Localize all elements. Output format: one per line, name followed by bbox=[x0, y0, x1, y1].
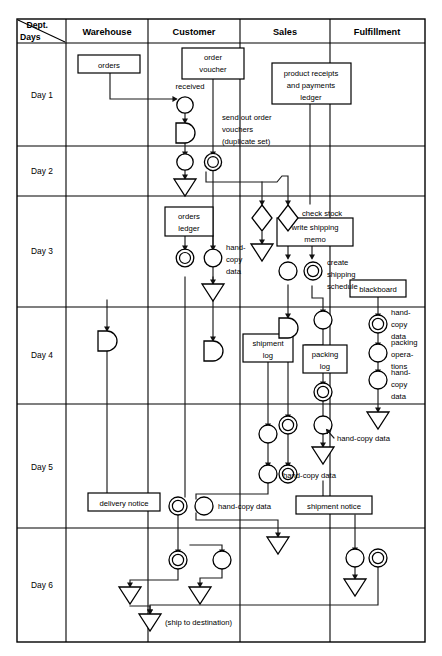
doc-label-shipment-log-l2: log bbox=[263, 351, 273, 360]
node-sink-day6-customer[interactable] bbox=[189, 587, 211, 604]
annot-packing-ops-l2: opera- bbox=[391, 350, 414, 359]
doc-label-shipment-notice: shipment notice bbox=[307, 502, 361, 511]
annot-handcopy-day5-b: hand-copy data bbox=[283, 471, 337, 480]
doc-label-memo-l1: write shipping bbox=[290, 223, 338, 232]
doc-label-receipts-l3: ledger bbox=[300, 93, 322, 102]
annot-send-out-l1: send out order bbox=[222, 113, 272, 122]
column-header-warehouse[interactable]: Warehouse bbox=[82, 27, 131, 37]
flow-day2-record-to-diamond-b bbox=[206, 172, 288, 204]
doc-label-memo-l2: memo bbox=[304, 235, 325, 244]
row-header-day2[interactable]: Day 2 bbox=[31, 166, 53, 176]
annot-handcopy-day3-l2: copy bbox=[226, 255, 242, 264]
annot-handcopy-day5-a: hand-copy data bbox=[337, 434, 391, 443]
corner-dept-label: Dept. bbox=[27, 20, 48, 30]
flow-day3-record-to-day4-place bbox=[312, 286, 323, 313]
annot-handcopy-f2-l2: copy bbox=[391, 380, 407, 389]
node-wait-day4-customer[interactable] bbox=[204, 341, 223, 361]
node-place-day5-customer[interactable] bbox=[195, 497, 213, 515]
doc-label-blackboard: blackboard bbox=[359, 285, 397, 294]
column-header-customer[interactable]: Customer bbox=[173, 27, 216, 37]
annot-create-ship-l2: shipping bbox=[327, 270, 356, 279]
row-headers: Day 1 Day 2 Day 3 Day 4 Day 5 Day 6 bbox=[31, 90, 53, 590]
node-record-day3-sales-inner bbox=[307, 265, 318, 276]
node-place-received[interactable] bbox=[177, 97, 193, 113]
node-record-day4-fulfillment-inner bbox=[372, 318, 383, 329]
annot-create-ship-l3: schedule bbox=[327, 282, 358, 291]
node-place-day5-sales-lower[interactable] bbox=[259, 465, 277, 483]
annot-handcopy-f1-l2: copy bbox=[391, 320, 407, 329]
node-place-day5-sales-mid[interactable] bbox=[259, 425, 277, 443]
doc-label-packing-log-l2: log bbox=[320, 362, 330, 371]
row-header-day3[interactable]: Day 3 bbox=[31, 246, 53, 256]
row-header-day5[interactable]: Day 5 bbox=[31, 462, 53, 472]
node-place-day6-customer[interactable] bbox=[213, 551, 231, 569]
annot-handcopy-day3-l1: hand- bbox=[226, 243, 246, 252]
node-wait-day1-customer[interactable] bbox=[176, 123, 195, 143]
node-place-day5-sales[interactable] bbox=[314, 416, 332, 434]
row-header-day6[interactable]: Day 6 bbox=[31, 580, 53, 590]
annot-send-out-l2: vouchers bbox=[222, 125, 253, 134]
node-record-day6-sales-inner bbox=[372, 552, 383, 563]
node-record-day5-sales-a-inner bbox=[282, 419, 293, 430]
node-place-day3-sales[interactable] bbox=[279, 262, 297, 280]
column-header-fulfillment[interactable]: Fulfillment bbox=[354, 27, 400, 37]
annot-received: received bbox=[175, 82, 204, 91]
corner-days-label: Days bbox=[20, 32, 41, 42]
node-place-day2-customer[interactable] bbox=[177, 154, 193, 170]
annot-create-ship-l1: create bbox=[327, 258, 348, 267]
node-sink-day5-fulfillment[interactable] bbox=[367, 412, 389, 429]
doc-label-receipts-l2: and payments bbox=[287, 81, 335, 90]
node-sink-day6-sales[interactable] bbox=[344, 579, 366, 596]
annot-check-stock: check stock bbox=[302, 209, 342, 218]
row-header-day1[interactable]: Day 1 bbox=[31, 90, 53, 100]
node-place-packing-operations[interactable] bbox=[369, 344, 387, 362]
doc-label-order-voucher-l2: voucher bbox=[199, 65, 227, 74]
doc-label-delivery-notice: delivery notice bbox=[99, 499, 148, 508]
node-sink-day3-sales[interactable] bbox=[251, 244, 273, 261]
node-record-day5-customer-inner bbox=[172, 500, 183, 511]
doc-label-packing-log-l1: packing bbox=[312, 350, 339, 359]
row-header-day4[interactable]: Day 4 bbox=[31, 350, 53, 360]
doc-label-orders-ledger-l1: orders bbox=[178, 212, 200, 221]
annot-ship-to-destination: (ship to destination) bbox=[165, 618, 233, 627]
table-grid bbox=[17, 19, 425, 642]
column-headers: Dept. Days Warehouse Customer Sales Fulf… bbox=[20, 20, 400, 42]
doc-label-receipts-l1: product receipts bbox=[284, 69, 339, 78]
node-place-handcopy-fulfillment[interactable] bbox=[369, 371, 387, 389]
flow-to-final-sink bbox=[130, 606, 150, 613]
annot-handcopy-day5-c: hand-copy data bbox=[218, 502, 272, 511]
process-flow-diagram: Dept. Days Warehouse Customer Sales Fulf… bbox=[0, 0, 442, 656]
flow-customer-to-sink-day5 bbox=[196, 513, 278, 536]
node-sink-day5-sales[interactable] bbox=[312, 447, 334, 464]
annot-handcopy-f1-l1: hand- bbox=[391, 308, 411, 317]
node-record-day6-customer-inner bbox=[172, 554, 183, 565]
node-decision-a-day3-sales[interactable] bbox=[252, 205, 272, 231]
annot-handcopy-day3-l3: data bbox=[226, 267, 242, 276]
doc-label-orders: orders bbox=[98, 61, 120, 70]
node-wait-day4-warehouse[interactable] bbox=[98, 331, 117, 351]
doc-label-orders-ledger-l2: ledger bbox=[178, 224, 200, 233]
doc-label-order-voucher-l1: order bbox=[204, 53, 222, 62]
annot-handcopy-f2-l1: hand- bbox=[391, 368, 411, 377]
column-header-sales[interactable]: Sales bbox=[273, 27, 297, 37]
node-sink-final-ship[interactable] bbox=[139, 614, 161, 631]
node-record-day2-customer-inner bbox=[208, 157, 219, 168]
flow-day5-to-customer-left bbox=[196, 481, 268, 499]
annot-packing-ops-l1: packing bbox=[391, 338, 418, 347]
node-place-day6-sales[interactable] bbox=[346, 549, 364, 567]
doc-label-shipment-log-l1: shipment bbox=[252, 339, 284, 348]
node-sink-day5-customer[interactable] bbox=[267, 537, 289, 554]
node-record-day4-sales-inner bbox=[317, 386, 328, 397]
diagram-canvas: Dept. Days Warehouse Customer Sales Fulf… bbox=[0, 0, 442, 656]
node-sink-day2-customer[interactable] bbox=[174, 179, 196, 196]
flow-day6-record-to-final-sink bbox=[150, 566, 378, 613]
node-place-day4-sales[interactable] bbox=[314, 311, 332, 329]
node-wait-day4-sales[interactable] bbox=[279, 318, 298, 338]
node-sink-day6-warehouse[interactable] bbox=[119, 587, 141, 604]
node-sink-day3-customer[interactable] bbox=[202, 284, 224, 301]
annot-handcopy-f2-l3: data bbox=[391, 392, 407, 401]
flow-orders-to-received bbox=[110, 72, 176, 99]
flow-day6-record-to-sink bbox=[130, 568, 178, 586]
node-place-day3-customer[interactable] bbox=[204, 249, 222, 267]
node-record-day3-customer-inner bbox=[180, 253, 191, 264]
